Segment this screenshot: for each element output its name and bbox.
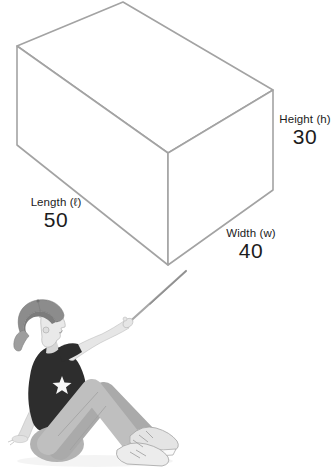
width-value: 40 xyxy=(222,240,280,262)
child-back-hand xyxy=(12,435,28,442)
rectangular-prism-figure xyxy=(0,0,332,471)
length-value: 50 xyxy=(26,209,86,231)
pointer-stick xyxy=(125,271,186,326)
child-ear xyxy=(43,327,49,333)
height-value: 30 xyxy=(277,126,332,148)
height-dimension: Height (h) 30 xyxy=(277,113,332,148)
cap-bill xyxy=(14,330,29,351)
length-dimension: Length (ℓ) 50 xyxy=(26,196,86,231)
child-thumb xyxy=(123,317,127,321)
diagram-canvas: Height (h) 30 Length (ℓ) 50 Width (w) 40 xyxy=(0,0,332,471)
child-pointing-illustration xyxy=(8,300,178,468)
width-dimension: Width (w) 40 xyxy=(222,227,280,262)
